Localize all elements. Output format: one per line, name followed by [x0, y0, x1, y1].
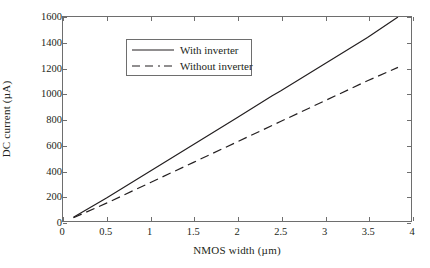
legend-item-with-inverter: With inverter: [131, 42, 247, 58]
y-tick-mark: [407, 17, 411, 18]
x-tick-mark: [107, 17, 108, 21]
y-tick-mark: [63, 120, 67, 121]
x-tick-mark: [107, 217, 108, 221]
x-tick-mark: [63, 217, 64, 221]
y-tick-label: 200: [46, 191, 62, 202]
x-tick-label: 1.5: [187, 226, 200, 237]
x-tick-mark: [326, 217, 327, 221]
y-tick-mark: [407, 94, 411, 95]
y-tick-label: 1000: [41, 88, 62, 99]
x-tick-label: 3: [322, 226, 327, 237]
x-tick-mark: [151, 17, 152, 21]
y-axis-title: DC current (µA): [0, 81, 12, 158]
y-tick-mark: [407, 43, 411, 44]
series-line-without-inverter: [73, 67, 398, 217]
y-tick-label: 600: [46, 139, 62, 150]
y-tick-mark: [407, 197, 411, 198]
legend-label-with-inverter: With inverter: [180, 44, 239, 56]
y-tick-mark: [407, 120, 411, 121]
x-tick-mark: [194, 217, 195, 221]
x-tick-mark: [369, 217, 370, 221]
legend-swatch-dashed-line: [131, 61, 175, 71]
x-tick-mark: [151, 217, 152, 221]
x-tick-mark: [63, 17, 64, 21]
y-tick-label: 1600: [41, 11, 62, 22]
x-tick-mark: [194, 17, 195, 21]
x-tick-label: 1: [147, 226, 152, 237]
x-tick-label: 2: [234, 226, 239, 237]
legend-label-without-inverter: Without inverter: [180, 60, 253, 72]
y-tick-mark: [63, 197, 67, 198]
x-tick-mark: [282, 217, 283, 221]
x-tick-mark: [326, 17, 327, 21]
y-tick-mark: [407, 69, 411, 70]
x-tick-mark: [369, 17, 370, 21]
figure-dc-current-vs-nmos-width: DC current (µA) NMOS width (µm) With inv…: [0, 0, 430, 268]
y-tick-mark: [63, 43, 67, 44]
y-tick-mark: [63, 223, 67, 224]
x-tick-mark: [282, 17, 283, 21]
x-tick-mark: [238, 217, 239, 221]
x-tick-label: 3.5: [362, 226, 375, 237]
x-tick-mark: [238, 17, 239, 21]
y-tick-mark: [407, 146, 411, 147]
x-tick-label: 2.5: [274, 226, 287, 237]
y-tick-mark: [63, 94, 67, 95]
y-tick-mark: [407, 223, 411, 224]
chart-legend: With inverter Without inverter: [126, 39, 252, 76]
plot-area: With inverter Without inverter: [62, 16, 412, 222]
y-tick-mark: [63, 172, 67, 173]
y-tick-mark: [63, 146, 67, 147]
x-axis-title: NMOS width (µm): [62, 244, 412, 256]
x-tick-mark: [413, 17, 414, 21]
y-tick-label: 1400: [41, 36, 62, 47]
y-tick-label: 1200: [41, 62, 62, 73]
legend-item-without-inverter: Without inverter: [131, 58, 247, 74]
y-tick-label: 800: [46, 114, 62, 125]
x-tick-label: 4: [409, 226, 414, 237]
x-tick-label: 0.5: [99, 226, 112, 237]
x-tick-label: 0: [59, 226, 64, 237]
x-tick-mark: [413, 217, 414, 221]
y-tick-mark: [407, 172, 411, 173]
y-tick-mark: [63, 69, 67, 70]
y-tick-label: 400: [46, 165, 62, 176]
legend-swatch-solid-line: [131, 45, 175, 55]
